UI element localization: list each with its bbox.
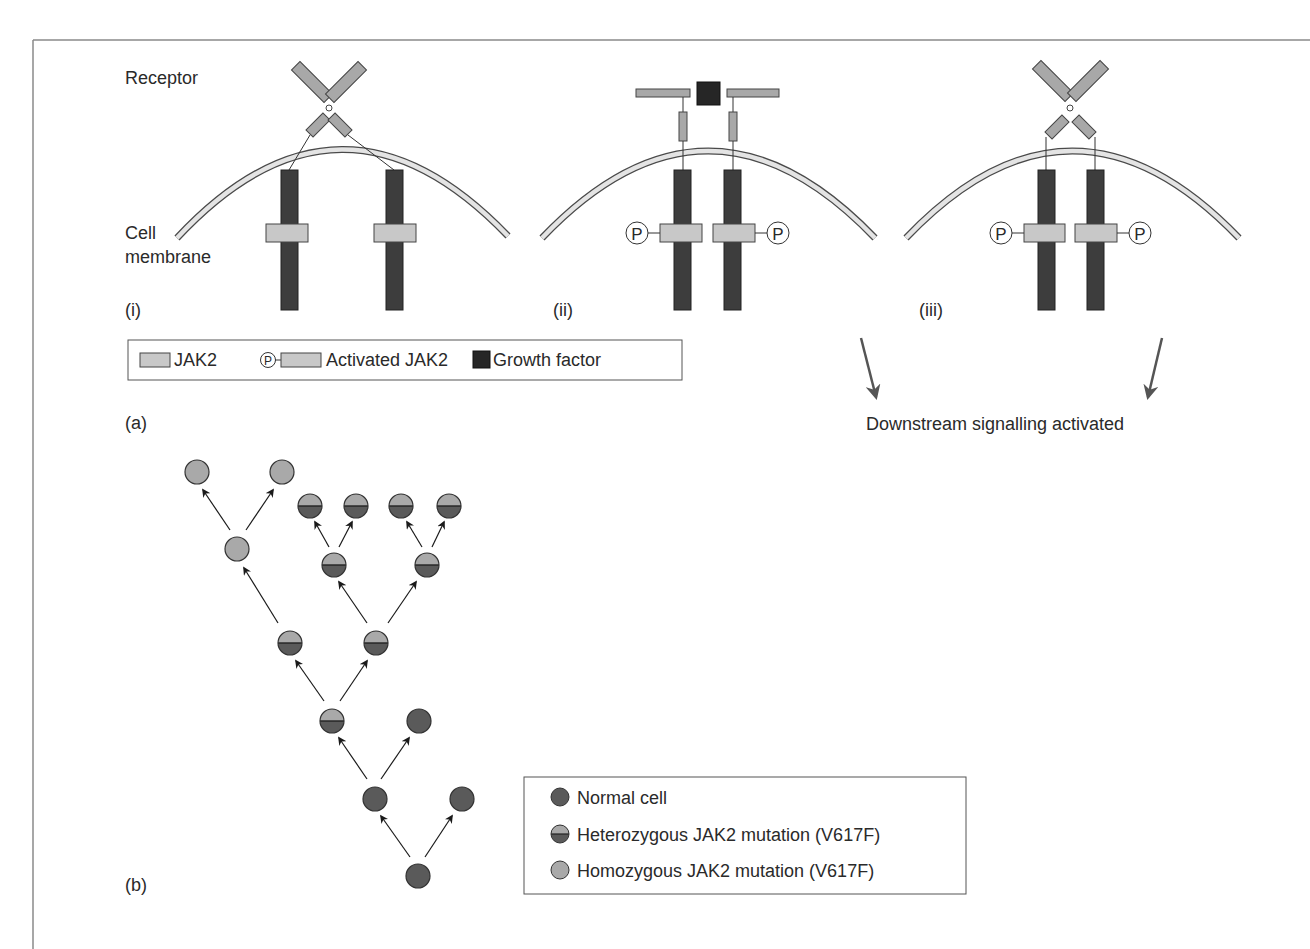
hetero-cell bbox=[415, 553, 439, 577]
hetero-cell bbox=[320, 709, 344, 733]
activated-jak2-right: P bbox=[1075, 222, 1151, 244]
membrane-label: membrane bbox=[125, 247, 211, 267]
hetero-cell bbox=[322, 553, 346, 577]
panel-label-a: (a) bbox=[125, 413, 147, 433]
normal-cell-icon bbox=[551, 788, 569, 806]
hetero-cell bbox=[437, 494, 461, 518]
legend-item-activated-jak2: P Activated JAK2 bbox=[261, 350, 449, 370]
svg-text:JAK2: JAK2 bbox=[174, 350, 217, 370]
hetero-cell bbox=[344, 494, 368, 518]
homozygous-cell-icon bbox=[551, 861, 569, 879]
subpanel-label-ii: (ii) bbox=[553, 300, 573, 320]
svg-text:P: P bbox=[772, 225, 783, 244]
panel-label-b: (b) bbox=[125, 875, 147, 895]
svg-text:Growth factor: Growth factor bbox=[493, 350, 601, 370]
svg-text:Homozygous JAK2 mutation (V617: Homozygous JAK2 mutation (V617F) bbox=[577, 861, 874, 881]
hetero-cell bbox=[389, 494, 413, 518]
svg-text:Heterozygous JAK2 mutation (V6: Heterozygous JAK2 mutation (V617F) bbox=[577, 825, 880, 845]
normal-cell bbox=[407, 709, 431, 733]
panel-a: Receptor Cell membrane bbox=[125, 60, 1239, 434]
svg-text:P: P bbox=[1134, 225, 1145, 244]
legend-item-growth-factor: Growth factor bbox=[473, 350, 601, 370]
legend-b: Normal cell Heterozygous JAK2 mutation (… bbox=[524, 777, 966, 894]
downstream-arrow-left bbox=[861, 338, 876, 397]
svg-text:P: P bbox=[995, 225, 1006, 244]
cell-membrane bbox=[906, 151, 1239, 238]
hetero-cell bbox=[298, 494, 322, 518]
svg-text:Normal cell: Normal cell bbox=[577, 788, 667, 808]
hetero-cell bbox=[278, 631, 302, 655]
cell-membrane bbox=[177, 149, 508, 238]
panel-b: Normal cell Heterozygous JAK2 mutation (… bbox=[125, 460, 966, 895]
subpanel-label-iii: (iii) bbox=[919, 300, 943, 320]
jak2-box-right bbox=[374, 224, 416, 242]
activated-jak2-left: P bbox=[626, 222, 702, 244]
cell-membrane bbox=[542, 151, 875, 238]
growth-factor bbox=[697, 82, 720, 105]
cell-label: Cell bbox=[125, 223, 156, 243]
activated-jak2-left: P bbox=[990, 222, 1065, 244]
homo-cell bbox=[185, 460, 209, 484]
normal-cell bbox=[450, 787, 474, 811]
subpanel-label-i: (i) bbox=[125, 300, 141, 320]
heterozygous-cell-icon bbox=[551, 825, 569, 843]
subpanel-iii: P P (iii) bbox=[906, 60, 1239, 320]
cell-lineage-tree bbox=[185, 460, 474, 888]
legend-item-jak2: JAK2 bbox=[140, 350, 217, 370]
normal-cell bbox=[363, 787, 387, 811]
downstream-text: Downstream signalling activated bbox=[866, 414, 1124, 434]
svg-text:P: P bbox=[264, 354, 272, 368]
jak2-box-left bbox=[266, 224, 308, 242]
normal-cell bbox=[406, 864, 430, 888]
homo-cell bbox=[225, 537, 249, 561]
legend-item-heterozygous: Heterozygous JAK2 mutation (V617F) bbox=[551, 825, 880, 845]
legend-item-homozygous: Homozygous JAK2 mutation (V617F) bbox=[551, 861, 874, 881]
activated-jak2-right: P bbox=[713, 222, 789, 244]
svg-text:Activated JAK2: Activated JAK2 bbox=[326, 350, 448, 370]
subpanel-ii: P P (ii) bbox=[542, 82, 875, 320]
hetero-cell bbox=[364, 631, 388, 655]
legend-a: JAK2 P Activated JAK2 Growth factor bbox=[128, 340, 682, 380]
receptor-label: Receptor bbox=[125, 68, 198, 88]
jak2-figure: Receptor Cell membrane bbox=[0, 0, 1310, 949]
subpanel-i: (i) bbox=[125, 61, 508, 320]
homo-cell bbox=[270, 460, 294, 484]
svg-text:P: P bbox=[631, 225, 642, 244]
downstream-arrow-right bbox=[1148, 338, 1162, 397]
